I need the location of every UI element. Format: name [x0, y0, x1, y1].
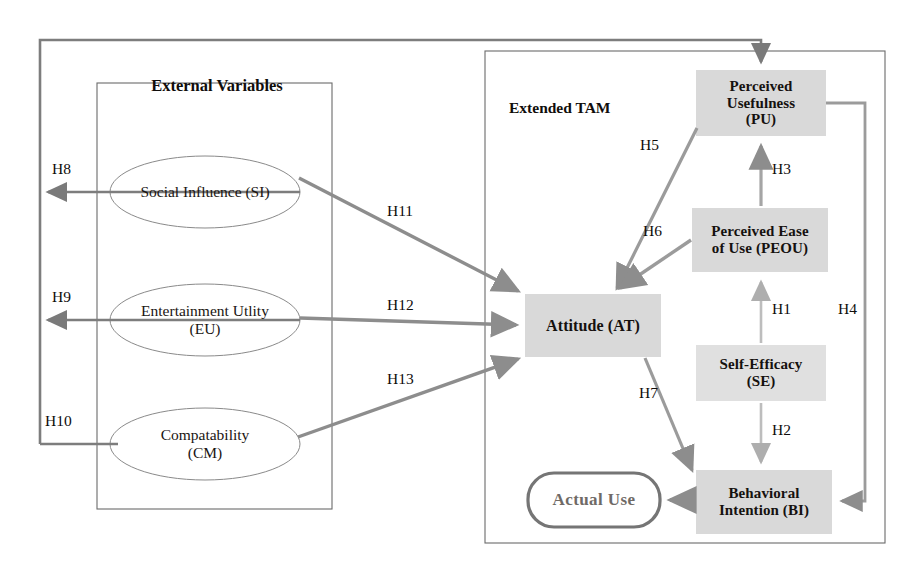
- ellipse-label-cm-line1: Compatability: [161, 426, 250, 444]
- ellipse-label-eu-line2: (EU): [190, 320, 221, 338]
- external-variables-group-label: External Variables: [147, 76, 287, 96]
- ellipse-label-cm: Compatability (CM): [108, 420, 302, 468]
- hypothesis-label-h9: H9: [52, 288, 71, 306]
- ellipse-label-si-line1: Social Influence (SI): [140, 183, 269, 201]
- construct-label-peou-line1: Perceived Ease: [711, 223, 808, 240]
- extended-tam-group-label: Extended TAM: [509, 99, 610, 117]
- hypothesis-label-h2: H2: [772, 421, 791, 439]
- hypothesis-label-h3: H3: [772, 160, 791, 178]
- construct-label-se-line2: (SE): [747, 373, 776, 390]
- hypothesis-label-h4: H4: [838, 300, 857, 318]
- hypothesis-label-h6: H6: [643, 222, 662, 240]
- hypothesis-label-h1: H1: [772, 300, 791, 318]
- construct-label-peou: Perceived Ease of Use (PEOU): [692, 208, 828, 272]
- construct-label-se-line1: Self-Efficacy: [720, 356, 803, 373]
- ellipse-label-si: Social Influence (SI): [110, 178, 300, 206]
- hypothesis-label-h7: H7: [639, 384, 658, 402]
- hypothesis-label-h13: H13: [387, 370, 414, 388]
- hypothesis-label-h11: H11: [387, 202, 413, 220]
- construct-label-pu-line2: Usefulness: [727, 95, 796, 112]
- construct-label-bi: Behavioral Intention (BI): [696, 470, 832, 534]
- construct-label-peou-line2: of Use (PEOU): [712, 240, 808, 257]
- diagram-canvas: External Variables Extended TAM Social I…: [0, 0, 922, 573]
- outcome-label-actual-use-text: Actual Use: [553, 490, 636, 510]
- hypothesis-label-h10: H10: [45, 412, 72, 430]
- arrow-h7: [645, 358, 692, 470]
- hypothesis-label-h8: H8: [52, 160, 71, 178]
- construct-label-se: Self-Efficacy (SE): [696, 345, 826, 401]
- ellipse-label-eu-line1: Entertainment Utlity: [141, 302, 269, 320]
- hypothesis-label-h12: H12: [387, 296, 414, 314]
- construct-label-bi-line1: Behavioral: [729, 485, 800, 502]
- construct-label-pu-line1: Perceived: [729, 78, 792, 95]
- construct-label-pu-line3: (PU): [746, 111, 776, 128]
- construct-label-bi-line2: Intention (BI): [719, 502, 809, 519]
- ellipse-label-cm-line2: (CM): [188, 444, 222, 462]
- construct-label-pu: Perceived Usefulness (PU): [696, 70, 826, 136]
- ellipse-label-eu: Entertainment Utlity (EU): [108, 296, 302, 344]
- construct-label-at-line1: Attitude (AT): [546, 317, 640, 335]
- hypothesis-label-h5: H5: [640, 136, 659, 154]
- construct-label-at: Attitude (AT): [525, 294, 661, 357]
- outcome-label-actual-use: Actual Use: [528, 473, 660, 527]
